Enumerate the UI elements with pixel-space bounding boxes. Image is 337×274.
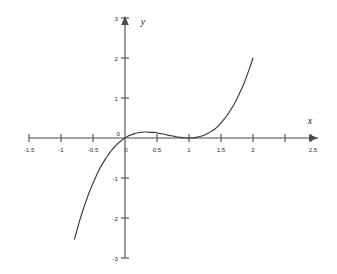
x-tick-label: 0.5 (153, 146, 162, 153)
y-tick-label-zero: 0 (117, 130, 121, 137)
x-tick-label: 2 (251, 146, 255, 153)
x-tick-label: 1.5 (217, 146, 226, 153)
x-tick-label: 1 (187, 146, 191, 153)
x-tick-label: -1 (58, 146, 64, 153)
y-tick-label: 2 (115, 55, 119, 62)
y-tick-label: 3 (115, 15, 119, 22)
x-tick-label: 2.5 (309, 146, 318, 153)
y-tick-label: -2 (112, 215, 118, 222)
cubic-function-plot: -1.5 -1 -0.5 0 0.5 1 1.5 2 2.5 (0, 0, 337, 274)
y-tick-label: -3 (112, 255, 118, 262)
chart-figure: -1.5 -1 -0.5 0 0.5 1 1.5 2 2.5 (0, 0, 337, 274)
x-tick-label: -0.5 (88, 146, 99, 153)
x-axis-label: x (307, 115, 313, 126)
y-tick-label: -1 (112, 175, 118, 182)
y-tick-label: 1 (115, 95, 119, 102)
y-axis-label: y (140, 16, 146, 27)
x-tick-label: -1.5 (24, 146, 35, 153)
plot-background (0, 0, 337, 274)
